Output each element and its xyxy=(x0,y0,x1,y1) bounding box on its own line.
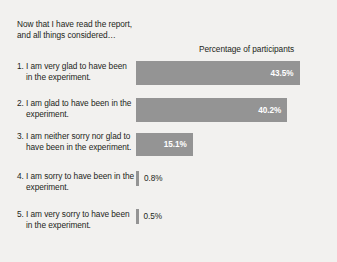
bar-track: 15.1% xyxy=(136,133,324,156)
bar-value-label: 0.8% xyxy=(144,171,162,186)
survey-bar-chart-figure: Now that I have read the report, and all… xyxy=(0,0,337,262)
bar-row-label: 2. I am glad to have been in the experim… xyxy=(17,98,135,119)
bar-rows-container: 1. I am very glad to have been in the ex… xyxy=(0,0,337,262)
bar-track: 40.2% xyxy=(136,98,324,122)
bar-track: 43.5% xyxy=(136,61,324,85)
bar-row-label: 3. I am neither sorry nor glad to have b… xyxy=(17,131,135,152)
bar-row-label: 5. I am very sorry to have been in the e… xyxy=(17,209,135,230)
bar-row-label: 1. I am very glad to have been in the ex… xyxy=(17,61,135,82)
bar-value-label: 15.1% xyxy=(136,133,187,156)
bar-row-label: 4. I am sorry to have been in the experi… xyxy=(17,171,135,192)
bar-track: 0.8% xyxy=(136,171,324,186)
bar-track: 0.5% xyxy=(136,209,324,224)
bar-value-label: 40.2% xyxy=(136,98,281,122)
bar-value-label: 0.5% xyxy=(144,209,162,224)
bar xyxy=(136,209,139,224)
bar-value-label: 43.5% xyxy=(136,61,294,85)
bar xyxy=(136,171,139,186)
